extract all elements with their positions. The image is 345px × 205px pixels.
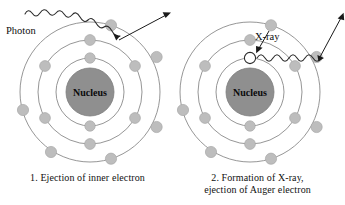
atom-diagram-left: Nucleus Photon: [0, 0, 175, 172]
electron: [245, 35, 256, 46]
electron: [205, 146, 216, 157]
electron: [245, 139, 256, 150]
caption-ejection: 1. Ejection of inner electron: [0, 172, 175, 184]
electron: [105, 153, 116, 164]
figure-root: Nucleus Photon: [0, 0, 345, 205]
electron: [245, 121, 255, 131]
nucleus-label: Nucleus: [73, 87, 107, 98]
electron: [200, 113, 211, 124]
electron: [311, 121, 322, 132]
electron: [290, 113, 301, 124]
auger-electron-arrowhead: [338, 13, 345, 20]
diagram-panel-ejection: Nucleus Photon: [0, 0, 175, 205]
electron: [40, 61, 51, 72]
caption-xray-auger: 2. Formation of X-ray, ejection of Auger…: [170, 172, 345, 196]
electron: [265, 153, 276, 164]
electron: [85, 139, 96, 150]
electron: [85, 35, 96, 46]
electron: [151, 121, 162, 132]
auger-electron-path: [320, 16, 342, 57]
relaxing-electron-arrowhead: [256, 46, 263, 53]
nucleus-label: Nucleus: [233, 87, 267, 98]
electron: [85, 53, 95, 63]
atom-diagram-right: Nucleus X-ray: [170, 0, 345, 172]
electron: [130, 61, 141, 72]
caption-line: 1. Ejection of inner electron: [0, 172, 175, 184]
caption-line: 2. Formation of X-ray,: [170, 172, 345, 184]
electron: [85, 121, 95, 131]
electron: [130, 113, 141, 124]
electron: [290, 61, 301, 72]
electron: [200, 61, 211, 72]
electron: [151, 51, 162, 62]
electron: [45, 146, 56, 157]
inner-shell-vacancy: [244, 52, 255, 63]
ejected-electron-path: [119, 14, 168, 40]
caption-line: ejection of Auger electron: [170, 184, 345, 196]
electron: [17, 104, 28, 115]
electron: [40, 113, 51, 124]
xray-label: X-ray: [255, 31, 280, 42]
photon-label: Photon: [6, 25, 37, 36]
electron: [265, 20, 276, 31]
diagram-panel-xray-auger: Nucleus X-ray: [170, 0, 345, 205]
electron: [177, 104, 188, 115]
